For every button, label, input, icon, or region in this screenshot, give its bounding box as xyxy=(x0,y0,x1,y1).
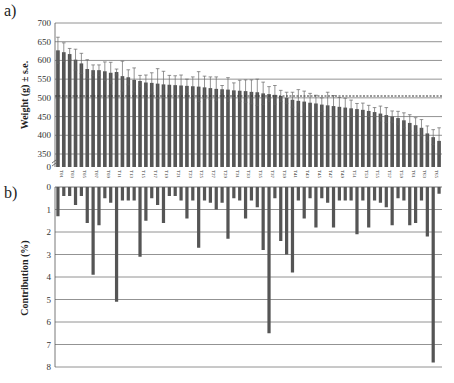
x-tick-label: T13 xyxy=(129,170,134,179)
panel-a-bar xyxy=(173,85,177,167)
panel-a-bar xyxy=(115,72,119,167)
panel-b-bar xyxy=(56,187,59,216)
panel-b-bar xyxy=(414,187,417,223)
panel-b-bar xyxy=(115,187,118,302)
panel-b-bar xyxy=(308,187,311,198)
x-tick-label: T61 xyxy=(411,170,416,179)
x-tick-label: T07 xyxy=(94,170,99,179)
panel-a-bar xyxy=(314,103,318,167)
panel-a-bar xyxy=(138,81,142,167)
x-tick-label: T03 xyxy=(70,170,75,179)
panel-b-bar xyxy=(391,187,394,225)
panel-b-bar xyxy=(62,187,65,196)
panel-b-bar xyxy=(179,187,182,201)
panel-b-bar xyxy=(162,187,165,223)
panel-b-bar xyxy=(74,187,77,205)
panel-b-bar xyxy=(256,187,259,207)
x-tick-label: T09 xyxy=(106,170,111,179)
x-tick-label: T19 xyxy=(164,170,169,179)
panel-b-bar xyxy=(267,187,270,333)
panel-b-bar xyxy=(209,187,212,203)
x-tick-label: T63 xyxy=(422,170,427,179)
panel-b-bar xyxy=(344,187,347,201)
panel-b-bar xyxy=(68,187,71,196)
panel-a-label: a) xyxy=(4,2,16,20)
panel-b-bar xyxy=(215,187,218,210)
panel-a-bar xyxy=(349,108,353,167)
panel-a-bar xyxy=(373,112,377,167)
panel-b-bar xyxy=(408,187,411,225)
panel-b-bar xyxy=(250,187,253,201)
panel-b-bar xyxy=(314,187,317,228)
panel-b-bar xyxy=(432,187,435,363)
panel-b-bar xyxy=(121,187,124,201)
panel-b-bar xyxy=(168,187,171,196)
x-tick-label: T17 xyxy=(153,170,158,179)
panel-b-bar xyxy=(396,187,399,198)
panel-b-bar xyxy=(97,187,100,225)
panel-b-bar xyxy=(221,187,224,203)
panel-a-bar xyxy=(68,54,72,167)
panel-a-bar xyxy=(390,117,394,167)
panel-b-bar xyxy=(426,187,429,237)
panel-a-ytick: 500 xyxy=(38,93,52,103)
panel-b-ytick: 4 xyxy=(47,272,52,282)
panel-b-ytick: 5 xyxy=(47,295,52,305)
panel-b-bar xyxy=(144,187,147,221)
panel-b-bar xyxy=(437,187,440,194)
x-tick-label: T11 xyxy=(117,170,122,178)
panel-a-ytick: 350 xyxy=(38,149,52,159)
panel-b-bar xyxy=(402,187,405,201)
panel-a-bar xyxy=(74,60,78,167)
panel-a-bar xyxy=(91,70,95,167)
figure: a) b) Weight (g) ± s.e. Contribution (%)… xyxy=(0,0,454,383)
panel-b-label: b) xyxy=(4,184,17,202)
panel-a-bar xyxy=(238,91,242,167)
panel-a-bar xyxy=(279,96,283,167)
panel-a-bar xyxy=(168,85,172,167)
panel-a-bar xyxy=(144,83,148,167)
panel-b-bar xyxy=(420,187,423,201)
panel-b-bar xyxy=(320,187,323,198)
panel-b-ytick: 0 xyxy=(47,182,52,192)
panel-b-bar xyxy=(262,187,265,250)
x-tick-label: T55 xyxy=(375,170,380,179)
x-tick-label: T35 xyxy=(258,170,263,179)
panel-a-bar xyxy=(179,86,183,167)
panel-b-bar xyxy=(103,187,106,198)
panel-a-ylabel: Weight (g) ± s.e. xyxy=(19,60,31,129)
x-tick-label: T43 xyxy=(305,170,310,179)
panel-b-bar xyxy=(203,187,206,201)
x-tick-label: T23 xyxy=(188,170,193,179)
panel-b-bar xyxy=(191,187,194,201)
panel-b-bar xyxy=(279,187,282,241)
x-tick-label: T37 xyxy=(270,170,275,179)
x-tick-label: T25 xyxy=(199,170,204,179)
panel-b-ytick: 6 xyxy=(47,317,52,327)
panel-b-bar xyxy=(338,187,341,201)
panel-b-bar xyxy=(379,187,382,203)
panel-b-bar xyxy=(273,187,276,198)
panel-a-bar xyxy=(379,114,383,167)
panel-b-bar xyxy=(367,187,370,228)
panel-b-bar xyxy=(303,187,306,219)
panel-b-bar xyxy=(80,187,83,196)
x-tick-label: T21 xyxy=(176,170,181,179)
panel-a-bar xyxy=(273,95,277,167)
x-tick-label: T65 xyxy=(434,170,439,179)
panel-b-bar xyxy=(355,187,358,234)
panel-b-bar xyxy=(326,187,329,203)
panel-a-bar xyxy=(85,69,89,167)
panel-a-bar xyxy=(203,87,207,167)
panel-b-bar xyxy=(291,187,294,273)
panel-a-bar xyxy=(367,111,371,167)
panel-a-chart: 7006506005505004504003500T01T03T05T07T09… xyxy=(38,18,443,185)
panel-b-ytick: 7 xyxy=(47,340,52,350)
x-tick-label: T57 xyxy=(387,170,392,179)
panel-a-bar xyxy=(361,110,365,167)
panel-a-bar xyxy=(62,52,66,167)
panel-a-ytick: 450 xyxy=(38,112,52,122)
panel-b-ylabel: Contribution (%) xyxy=(19,240,31,315)
panel-a-bar xyxy=(80,63,84,167)
panel-b-bar xyxy=(285,187,288,255)
